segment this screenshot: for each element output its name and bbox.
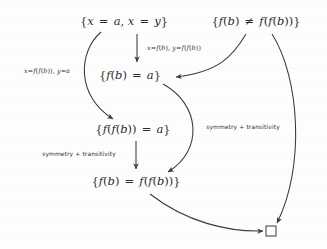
- edge-label-substitution-1: x=f(b), y=f(f(b)): [147, 45, 201, 51]
- clause-node-ffb-eq-a: {f(f(b)) = a}: [95, 124, 170, 136]
- edge-n5-to-n6: [150, 194, 263, 231]
- edge-label-rule-right: symmetry + transitivity: [206, 125, 280, 131]
- edge-n2-to-n3: [176, 34, 246, 77]
- empty-clause-box: [266, 226, 277, 237]
- clause-node-root-right: {f(b) ≠ f(f(b))}: [211, 16, 300, 28]
- clause-node-root-left: {x = a, x = y}: [80, 16, 168, 28]
- proof-diagram: {x = a, x = y} {f(b) ≠ f(f(b))} {f(b) = …: [0, 0, 327, 249]
- edge-label-substitution-2: x=f(f(b)), y=a: [24, 68, 70, 74]
- edge-label-rule-left: symmetry + transitivity: [42, 152, 116, 158]
- clause-node-fb-eq-a: {f(b) = a}: [99, 70, 161, 82]
- clause-node-fb-eq-ffb: {f(b) = f(f(b))}: [91, 176, 180, 188]
